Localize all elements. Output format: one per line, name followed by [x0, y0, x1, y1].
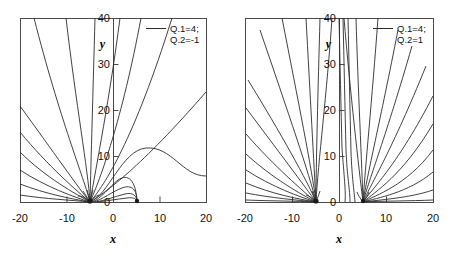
right-plot-svg: 40 30 20 10 0 y -20 -10 0 10 20 x Q.1=4;… [226, 0, 452, 259]
figure-root: 40 30 20 10 0 y -20 -10 0 10 20 x Q.1=4;… [0, 0, 453, 259]
legend-label-line1: Q.1=4; [170, 23, 199, 34]
x-tick-label: -20 [237, 212, 253, 224]
y-tick-label: 0 [104, 196, 110, 208]
panel-right: 40 30 20 10 0 y -20 -10 0 10 20 x Q.1=4;… [226, 0, 452, 259]
x-tick-label: 10 [154, 212, 166, 224]
source-marker-q1 [87, 198, 92, 203]
legend-label-line1: Q.1=4; [397, 23, 426, 34]
source-marker-q2 [361, 199, 365, 203]
source-marker-q1 [313, 198, 318, 203]
y-tick-label: 40 [98, 12, 110, 24]
y-tick-label: 30 [98, 58, 110, 70]
sink-marker-q2 [135, 199, 139, 203]
left-plot-svg: 40 30 20 10 0 y -20 -10 0 10 20 x Q.1=4;… [0, 0, 226, 259]
x-tick-label: 0 [336, 212, 342, 224]
x-tick-label: 10 [380, 212, 392, 224]
x-axis-title: x [109, 232, 116, 246]
y-axis-title: y [98, 37, 106, 51]
panel-right-canvas: 40 30 20 10 0 y -20 -10 0 10 20 x Q.1=4;… [226, 0, 452, 259]
y-tick-label: 20 [324, 104, 336, 116]
x-tick-label: 0 [110, 212, 116, 224]
x-axis-title: x [335, 232, 342, 246]
x-tick-label: -10 [59, 212, 75, 224]
y-tick-label: 0 [330, 196, 336, 208]
y-tick-label: 10 [98, 150, 110, 162]
x-tick-label: -20 [12, 212, 28, 224]
legend-label-line2: Q.2=1 [397, 34, 423, 45]
panel-left-canvas: 40 30 20 10 0 y -20 -10 0 10 20 x Q.1=4;… [0, 0, 226, 259]
y-tick-label: 10 [324, 150, 336, 162]
x-tick-label: 20 [427, 212, 439, 224]
y-tick-label: 30 [324, 58, 336, 70]
x-tick-label: -10 [284, 212, 300, 224]
panel-left: 40 30 20 10 0 y -20 -10 0 10 20 x Q.1=4;… [0, 0, 226, 259]
y-tick-label: 40 [324, 12, 336, 24]
x-tick-label: 20 [200, 212, 212, 224]
y-axis-title: y [324, 37, 332, 51]
legend-label-line2: Q.2=-1 [170, 34, 199, 45]
y-tick-label: 20 [98, 104, 110, 116]
